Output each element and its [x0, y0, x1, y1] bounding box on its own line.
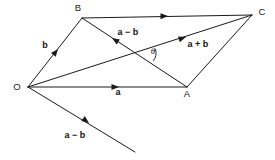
- arrowhead-vector-a-plus-b: [178, 36, 186, 42]
- edge-B-to-C: [82, 15, 252, 18]
- vector-parallelogram-figure: O B C A b a − b a + b a a − b θ: [0, 0, 275, 160]
- vector-diagram-canvas: O B C A b a − b a + b a a − b θ: [0, 0, 275, 160]
- vertex-label-O: O: [13, 81, 20, 92]
- angle-label-theta: θ: [151, 46, 156, 56]
- vector-label-b: b: [42, 40, 48, 50]
- vertex-label-C: C: [259, 6, 266, 17]
- vector-label-a-minus-b-top: a − b: [118, 27, 139, 37]
- vertex-label-B: B: [75, 2, 81, 13]
- vertex-label-A: A: [184, 88, 191, 99]
- diagonal-O-to-C: [28, 15, 252, 87]
- arrowhead-edge-b-to-c: [160, 13, 168, 19]
- arrowhead-vector-a-minus-b-top: [112, 38, 120, 45]
- vector-label-a-minus-b-bottom: a − b: [65, 130, 86, 140]
- vector-label-a-plus-b: a + b: [188, 39, 209, 49]
- vector-label-a: a: [115, 87, 121, 97]
